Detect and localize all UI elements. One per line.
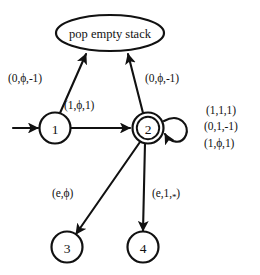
label-state2-to-state4: (e,1,*): [152, 187, 180, 202]
state-label-1: 1: [52, 122, 59, 137]
label-state2-to-state4-prefix: (e,1,: [152, 187, 172, 199]
label-state2-to-state3: (e,ϕ): [52, 187, 73, 201]
self-loop-label-2: (0,1,-1): [204, 120, 238, 132]
edge-state2-to-state4: [143, 143, 145, 231]
pda-state-diagram: pop empty stack 1 2 3 4 (0,ϕ,-1) (1,ϕ,1)…: [0, 0, 260, 275]
self-loop-label-3: (1,ϕ,1): [204, 137, 234, 149]
label-state1-to-error: (0,ϕ,-1): [8, 72, 42, 86]
state-label-2: 2: [145, 122, 152, 137]
state-label-3: 3: [64, 241, 71, 256]
label-state1-to-state2: (1,ϕ,1): [64, 99, 94, 113]
edge-state2-to-error: [128, 54, 143, 113]
label-state2-to-error: (0,ϕ,-1): [145, 72, 179, 86]
state-label-4: 4: [140, 241, 147, 256]
self-loop-state2: [164, 118, 187, 142]
edge-state2-to-state3: [76, 142, 140, 234]
error-node-label: pop empty stack: [69, 27, 152, 41]
self-loop-label-1: (1,1,1): [206, 104, 236, 116]
label-state2-to-state4-suffix: ): [176, 187, 180, 199]
